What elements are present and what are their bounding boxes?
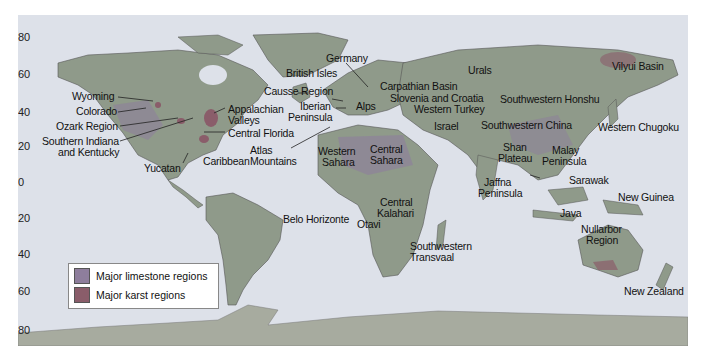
label-western-sahara-2: Sahara: [322, 157, 355, 168]
lat-tick-40s: 40: [18, 249, 30, 260]
label-causse: Causse Region: [264, 86, 333, 97]
label-british-isles: British Isles: [286, 68, 337, 79]
lat-tick-40n: 40: [18, 107, 30, 118]
label-colorado: Colorado: [76, 106, 117, 117]
label-new-zealand: New Zealand: [624, 286, 684, 297]
label-peninsula: Peninsula: [288, 112, 332, 123]
limestone-swatch: [74, 268, 90, 284]
label-vilyui-basin: Vilyui Basin: [612, 61, 664, 72]
antarctica: [18, 305, 688, 346]
label-java: Java: [560, 208, 581, 219]
lat-tick-20n: 20: [18, 141, 30, 152]
label-new-guinea: New Guinea: [618, 192, 674, 203]
label-germany: Germany: [326, 53, 368, 64]
label-sw-honshu: Southwestern Honshu: [500, 94, 600, 105]
label-malay-peninsula: Peninsula: [542, 156, 586, 167]
karst-swatch: [74, 287, 90, 303]
label-yucatan: Yucatan: [144, 163, 181, 174]
label-caribbean: Caribbean: [203, 156, 250, 167]
label-israel: Israel: [434, 121, 458, 132]
label-nullarbor-region: Region: [586, 235, 618, 246]
label-sw-china: Southwestern China: [481, 120, 572, 131]
label-otavi: Otavi: [357, 219, 381, 230]
label-urals: Urals: [468, 65, 492, 76]
lat-tick-0: 0: [18, 177, 24, 188]
label-plateau: Plateau: [498, 153, 532, 164]
label-valleys: Valleys: [228, 115, 260, 126]
world-map: 80 60 40 20 0 20 40 60 80 Wyoming Colora…: [18, 15, 688, 346]
label-western-chugoku: Western Chugoku: [598, 122, 679, 133]
label-central-sahara-2: Sahara: [370, 155, 403, 166]
legend-item-limestone: Major limestone regions: [74, 268, 207, 284]
label-sw-transvaal-2: Transvaal: [410, 252, 454, 263]
label-wyoming: Wyoming: [72, 91, 114, 102]
lat-tick-60s: 60: [18, 286, 30, 297]
label-sarawak: Sarawak: [569, 175, 608, 186]
label-carpathian: Carpathian Basin: [380, 81, 457, 92]
label-ozark: Ozark Region: [56, 121, 118, 132]
legend-label-karst: Major karst regions: [96, 289, 185, 301]
lat-tick-60n: 60: [18, 69, 30, 80]
label-central-kalahari-2: Kalahari: [377, 208, 414, 219]
label-belo-horizonte: Belo Horizonte: [283, 214, 349, 225]
lat-tick-20s: 20: [18, 213, 30, 224]
map-legend: Major limestone regions Major karst regi…: [68, 263, 219, 309]
lat-tick-80n: 80: [18, 32, 30, 43]
label-kentucky: and Kentucky: [58, 147, 119, 158]
central-america: [168, 180, 203, 208]
label-alps: Alps: [356, 101, 376, 112]
legend-label-limestone: Major limestone regions: [96, 270, 207, 282]
lat-tick-80s: 80: [18, 325, 30, 336]
legend-item-karst: Major karst regions: [74, 287, 185, 303]
label-western-turkey: Western Turkey: [414, 104, 485, 115]
label-central-florida: Central Florida: [228, 128, 294, 139]
label-mountains: Mountains: [250, 156, 297, 167]
label-jaffna-peninsula: Peninsula: [478, 188, 522, 199]
